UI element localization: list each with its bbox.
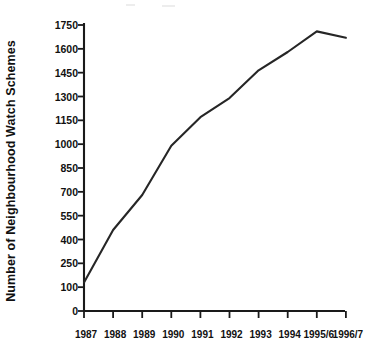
plot-area [0,0,382,360]
scan-artifact [126,4,135,6]
x-axis-tick-label: 1995/6 [304,330,335,340]
x-axis-tick-label: 1994 [279,330,301,340]
x-axis-tick-label: 1987 [75,330,97,340]
chart-figure: Number of Neighbourhood Watch Schemes 01… [0,0,382,360]
x-axis-tick-label: 1996/7 [333,330,364,340]
x-axis-tick-label: 1988 [104,330,126,340]
x-axis-tick-label: 1991 [191,330,213,340]
data-series-line [84,31,346,282]
x-axis-tick-label: 1992 [220,330,242,340]
scan-artifact [162,5,175,7]
x-axis-tick-label: 1993 [249,330,271,340]
x-axis-tick-labels: 198719881989199019911992199319941995/619… [0,330,382,350]
x-axis-tick-label: 1990 [162,330,184,340]
x-axis-tick-label: 1989 [133,330,155,340]
